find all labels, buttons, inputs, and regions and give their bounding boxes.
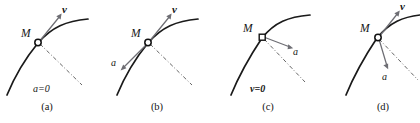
normal-line-b [150,44,192,85]
velocity-vector-b [149,13,172,42]
point-label-c: M [242,22,254,34]
panel-c: M a v=0 (c) [231,15,310,113]
panel-d: M v a (d) [346,0,420,113]
panel-caption-d: (d) [377,101,390,113]
acceleration-vector-c [265,38,293,50]
acceleration-vector-b [121,43,149,71]
velocity-label-d: v [400,0,405,12]
panel-caption-a: (a) [41,101,53,113]
point-label-b: M [130,27,142,39]
acceleration-label-c: a [293,46,298,57]
point-marker-d [375,34,381,40]
acceleration-vector-d [379,38,389,70]
panel-caption-c: (c) [262,101,274,113]
figure-canvas: M v a=0 (a) M v a (b) [0,0,420,123]
condition-label-c: v=0 [250,83,265,94]
point-marker-a [35,39,41,45]
velocity-vector-a [39,13,62,42]
physics-vector-figure: M v a=0 (a) M v a (b) [0,0,420,123]
point-marker-c [259,34,265,40]
condition-label-a: a=0 [33,83,50,94]
point-label-a: M [20,27,32,39]
acceleration-label-d: a [382,71,387,82]
velocity-label-a: v [62,3,67,15]
trajectory-curve-b [117,19,198,95]
trajectory-curve-d [346,15,420,95]
normal-line-a [40,44,82,85]
point-label-d: M [359,22,371,34]
velocity-label-b: v [172,3,177,15]
velocity-vector-d [379,11,400,38]
acceleration-label-b: a [111,57,116,68]
panel-b: M v a (b) [111,3,198,113]
panel-a: M v a=0 (a) [7,3,88,113]
panel-caption-b: (b) [151,101,164,113]
point-marker-b [145,39,151,45]
